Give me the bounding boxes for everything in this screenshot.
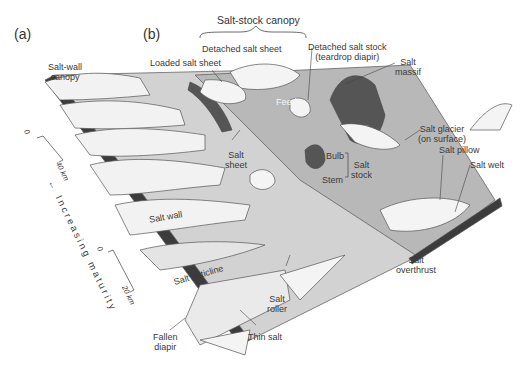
label-line: stock — [351, 170, 372, 180]
label-line: diapir — [153, 342, 178, 352]
label-line: (on surface) — [418, 134, 466, 144]
label-salt-welt: Salt welt — [470, 160, 504, 170]
label-loaded-salt-sheet: Loaded salt sheet — [150, 58, 221, 68]
label-feeder: Feeder — [276, 97, 305, 107]
label-line: Fallen — [153, 332, 178, 342]
label-salt-sheet: Salt sheet — [225, 150, 247, 170]
label-detached-salt-stock: Detached salt stock (teardrop diapir) — [308, 42, 387, 62]
label-line: overthrust — [396, 265, 436, 275]
label-salt-wall-canopy: Salt-wall canopy — [48, 62, 82, 82]
label-line: Salt — [396, 255, 436, 265]
canopy-bracket — [200, 26, 306, 38]
label-salt-roller: Salt roller — [267, 294, 287, 314]
salt-stock-canopy-title: Salt-stock canopy — [217, 14, 300, 26]
label-line: Salt — [395, 57, 421, 67]
label-thin-salt: Thin salt — [248, 332, 282, 342]
label-stem: Stem — [322, 175, 343, 185]
panel-label-a: (a) — [14, 26, 31, 42]
label-salt-stock: Salt stock — [351, 160, 372, 180]
label-line: Salt glacier — [418, 124, 466, 134]
panel-label-b: (b) — [143, 26, 160, 42]
label-bulb: Bulb — [326, 151, 344, 161]
label-line: Salt-wall — [48, 62, 82, 72]
label-salt-glacier: Salt glacier (on surface) — [418, 124, 466, 144]
label-line: Salt — [351, 160, 372, 170]
label-line: massif — [395, 67, 421, 77]
label-line: (teardrop diapir) — [308, 52, 387, 62]
label-line: roller — [267, 304, 287, 314]
label-line: Detached salt stock — [308, 42, 387, 52]
label-line: Salt — [267, 294, 287, 304]
label-line: canopy — [48, 72, 82, 82]
label-line: Salt — [225, 150, 247, 160]
label-salt-overthrust: Salt overthrust — [396, 255, 436, 275]
label-detached-salt-sheet: Detached salt sheet — [202, 44, 282, 54]
label-salt-massif: Salt massif — [395, 57, 421, 77]
salt-tectonics-block-diagram — [0, 0, 528, 365]
label-fallen-diapir: Fallen diapir — [153, 332, 178, 352]
label-line: sheet — [225, 160, 247, 170]
label-salt-pillow: Salt pillow — [439, 145, 480, 155]
